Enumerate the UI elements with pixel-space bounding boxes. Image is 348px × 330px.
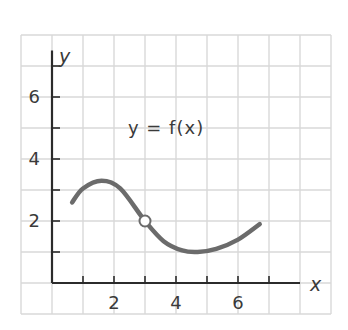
y-axis-label: y	[58, 45, 71, 67]
y-tick-label: 4	[29, 148, 40, 169]
x-tick-label: 2	[108, 292, 119, 313]
x-tick-label: 4	[170, 292, 181, 313]
y-tick-label: 2	[29, 210, 40, 231]
function-graph: 246246 x y y = f(x)	[0, 0, 348, 330]
function-curve	[72, 181, 260, 252]
open-circle-point	[140, 216, 151, 227]
y-tick-label: 6	[29, 86, 40, 107]
x-tick-label: 6	[232, 292, 243, 313]
x-axis-label: x	[309, 273, 322, 295]
tick-marks	[52, 66, 269, 283]
function-annotation: y = f(x)	[128, 117, 204, 138]
grid	[21, 35, 331, 314]
